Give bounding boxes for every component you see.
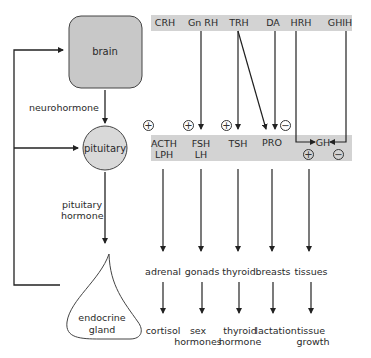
plus-sign-fsh: + [183, 120, 194, 131]
pituitary-hormone-label-line1: pituitary [62, 199, 102, 210]
endocrine-regulation-diagram: brain pituitary endocrine gland neurohor… [0, 0, 371, 358]
hormone-lph: LPH [155, 149, 173, 160]
minus-sign-gh: − [333, 149, 344, 160]
neurohormone-label: neurohormone [29, 102, 99, 113]
hormone-pro: PRO [262, 137, 282, 148]
releasing-hormone-trh: TRH [229, 17, 249, 28]
releasing-hormone-ghih: GHIH [328, 17, 352, 28]
minus-sign-pro: − [280, 120, 291, 131]
effect-tissue-line1: tissue [297, 325, 325, 336]
releasing-hormone-hrh: HRH [291, 17, 312, 28]
releasing-hormone-gnrh: Gn RH [188, 17, 218, 28]
releasing-hormone-da: DA [266, 17, 280, 28]
target-adrenal: adrenal [145, 266, 181, 277]
effect-tissue-line2: growth [296, 336, 329, 347]
hormone-gh: GH [316, 137, 331, 148]
target-gonads: gonads [185, 266, 220, 277]
pituitary-label: pituitary [84, 143, 126, 154]
effect-sex-line1: sex [190, 325, 206, 336]
plus-sign-gh: + [303, 149, 314, 160]
connector-lines [0, 0, 371, 358]
plus-sign-acth: + [143, 120, 154, 131]
target-tissues: tissues [294, 266, 327, 277]
effect-sex-line2: hormones [174, 336, 221, 347]
effect-thyroid-line2: hormone [219, 336, 262, 347]
hormone-lh: LH [195, 149, 207, 160]
gland-label-line1: endocrine [78, 312, 125, 323]
pituitary-hormone-label-line2: hormone [61, 210, 104, 221]
hormone-fsh: FSH [192, 138, 210, 149]
plus-sign-tsh: + [221, 120, 232, 131]
brain-label: brain [92, 46, 118, 57]
gland-label-line2: gland [89, 324, 116, 335]
hormone-acth: ACTH [151, 138, 177, 149]
target-thyroid: thyroid [222, 266, 256, 277]
releasing-hormone-crh: CRH [155, 17, 175, 28]
effect-cortisol: cortisol [146, 325, 181, 336]
effect-lactation: lactation [255, 325, 296, 336]
target-breasts: breasts [255, 266, 290, 277]
effect-thyroid-line1: thyroid [223, 325, 257, 336]
hormone-tsh: TSH [229, 138, 248, 149]
